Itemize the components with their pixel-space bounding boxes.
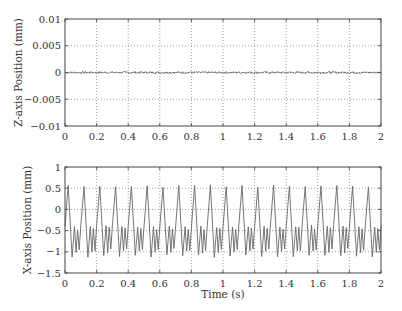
top-plot: 0.010.0050−0.005−0.01 00.20.40.60.811.21… <box>12 14 384 143</box>
bottom-y-ticks: 10.50−0.5−1−1.5 <box>37 162 381 279</box>
x-tick-label: 0.4 <box>120 131 136 142</box>
y-tick-label: 0 <box>55 67 61 78</box>
y-tick-label: −0.5 <box>37 225 61 236</box>
x-tick-label: 0.8 <box>183 131 199 142</box>
x-tick-label: 0.6 <box>152 278 168 289</box>
y-tick-label: −1.5 <box>37 268 61 279</box>
y-tick-label: 0.01 <box>39 14 61 25</box>
z-position-line <box>65 71 381 73</box>
x-tick-label: 1.4 <box>278 278 294 289</box>
x-tick-label: 2 <box>378 278 384 289</box>
x-tick-label: 0 <box>62 131 68 142</box>
y-tick-label: 0.5 <box>45 183 61 194</box>
x-tick-label: 1.8 <box>341 278 357 289</box>
bottom-xlabel: Time (s) <box>201 288 244 300</box>
x-tick-label: 1.6 <box>310 131 326 142</box>
x-tick-label: 1.6 <box>310 278 326 289</box>
y-tick-label: −0.01 <box>30 121 61 132</box>
x-tick-label: 1.2 <box>247 131 263 142</box>
x-tick-label: 0.8 <box>183 278 199 289</box>
y-tick-label: 1 <box>55 162 61 173</box>
x-tick-label: 1.2 <box>247 278 263 289</box>
x-tick-label: 0.2 <box>89 131 105 142</box>
x-tick-label: 1 <box>220 131 226 142</box>
y-tick-label: 0 <box>55 204 61 215</box>
top-grid <box>65 19 381 126</box>
x-tick-label: 1.8 <box>341 131 357 142</box>
bottom-plot: 10.50−0.5−1−1.5 00.20.40.60.811.21.41.61… <box>21 162 384 301</box>
figure: 0.010.0050−0.005−0.01 00.20.40.60.811.21… <box>0 0 402 311</box>
y-tick-label: −1 <box>46 246 61 257</box>
y-tick-label: −0.005 <box>24 94 61 105</box>
bottom-ylabel: X-axis Position (mm) <box>21 166 33 275</box>
x-tick-label: 0.2 <box>89 278 105 289</box>
x-tick-label: 0 <box>62 278 68 289</box>
top-ylabel: Z-axis Position (mm) <box>12 18 24 127</box>
x-tick-label: 0.4 <box>120 278 136 289</box>
x-tick-label: 0.6 <box>152 131 168 142</box>
x-tick-label: 1.4 <box>278 131 294 142</box>
y-tick-label: 0.005 <box>32 40 61 51</box>
x-tick-label: 2 <box>378 131 384 142</box>
